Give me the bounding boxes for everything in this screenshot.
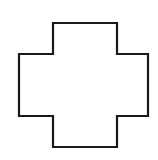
cross-shape-outline: [19, 23, 148, 147]
diagram-canvas: [0, 0, 158, 160]
cross-shape-svg: [0, 0, 158, 160]
